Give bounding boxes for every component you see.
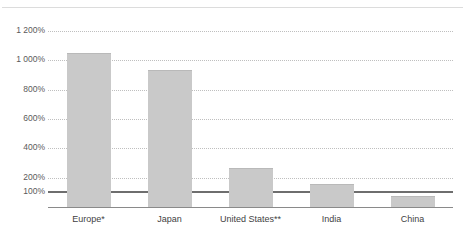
bar-series — [48, 19, 453, 207]
bar[interactable] — [391, 196, 435, 207]
bar-slot — [391, 19, 435, 207]
chart-container: 1 200%1 000%800%600%400%200%100% Europe*… — [0, 0, 465, 240]
bar-slot — [67, 19, 111, 207]
bar[interactable] — [148, 70, 192, 207]
chart-title-cropped — [0, 0, 465, 6]
x-axis-category-label: India — [291, 213, 372, 225]
bar[interactable] — [229, 168, 273, 207]
bar-slot — [310, 19, 354, 207]
x-axis-baseline — [48, 207, 453, 208]
bar[interactable] — [310, 184, 354, 207]
x-axis-category-label: Europe* — [48, 213, 129, 225]
y-axis-labels: 1 200%1 000%800%600%400%200%100% — [0, 19, 45, 207]
bar-slot — [229, 19, 273, 207]
y-axis-tick-label: 1 000% — [1, 55, 45, 64]
y-axis-tick-label: 1 200% — [1, 26, 45, 35]
x-axis-category-label: China — [372, 213, 453, 225]
bar[interactable] — [67, 53, 111, 207]
x-axis-labels: Europe*JapanUnited States**IndiaChina — [48, 210, 453, 232]
bar-slot — [148, 19, 192, 207]
y-axis-tick-label: 600% — [1, 114, 45, 123]
y-axis-tick-label: 100% — [1, 187, 45, 196]
y-axis-tick-label: 400% — [1, 143, 45, 152]
x-axis-category-label: Japan — [129, 213, 210, 225]
y-axis-tick-label: 200% — [1, 173, 45, 182]
x-axis-category-label: United States** — [210, 213, 291, 225]
plot-area — [48, 19, 453, 207]
y-axis-tick-label: 800% — [1, 85, 45, 94]
title-divider — [2, 7, 463, 8]
